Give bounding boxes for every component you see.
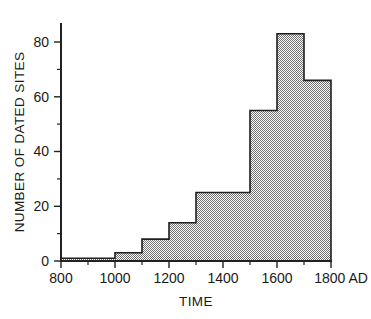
x-tick-label-1400: 1400 <box>207 270 238 286</box>
x-tick-label-1000: 1000 <box>99 270 130 286</box>
x-axis-title: TIME <box>179 294 213 309</box>
x-tick-label-1200: 1200 <box>153 270 184 286</box>
histogram-chart: 0 20 40 60 80 800 1000 1200 1400 1600 18… <box>0 0 371 319</box>
y-tick-label-0: 0 <box>41 253 49 269</box>
y-tick-label-40: 40 <box>33 143 49 159</box>
y-tick-label-60: 60 <box>33 89 49 105</box>
x-tick-label-1600: 1600 <box>261 270 292 286</box>
y-axis-title: NUMBER OF DATED SITES <box>12 52 27 233</box>
x-tick-label-800: 800 <box>49 270 73 286</box>
y-tick-label-80: 80 <box>33 34 49 50</box>
chart-canvas: 0 20 40 60 80 800 1000 1200 1400 1600 18… <box>0 0 371 319</box>
x-axis-ticks <box>61 261 331 268</box>
x-tick-label-1800: 1800 AD <box>314 270 368 286</box>
y-tick-label-20: 20 <box>33 198 49 214</box>
y-axis-ticks <box>54 42 61 261</box>
